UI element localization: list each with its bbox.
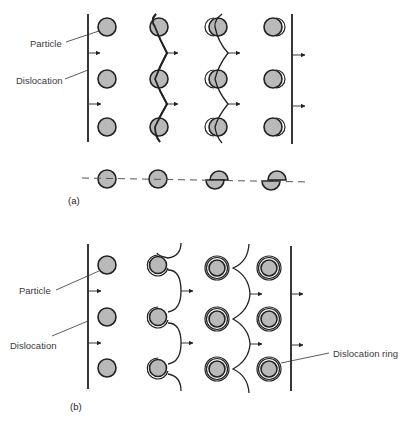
stage-a2 xyxy=(150,14,178,142)
particle xyxy=(98,18,116,36)
stage-b4 xyxy=(257,246,303,391)
ring-leader-line xyxy=(281,353,329,363)
stage-b3 xyxy=(205,244,262,393)
particle xyxy=(150,360,167,377)
particle xyxy=(209,311,225,327)
stage-b2 xyxy=(147,243,193,391)
dislocation-line xyxy=(168,374,181,391)
dislocation-line xyxy=(233,244,250,393)
sheared-particle-bottom xyxy=(262,181,280,190)
particle-label: Particle xyxy=(30,38,62,49)
particle xyxy=(261,311,277,327)
panel-b: Particle Dislocation Dislocation ring (b… xyxy=(10,243,398,412)
particle xyxy=(209,18,227,36)
particle xyxy=(150,257,167,274)
particle-leader-line xyxy=(56,271,99,290)
panel-a-label: (a) xyxy=(68,195,80,206)
particle xyxy=(150,309,167,326)
particle xyxy=(150,118,168,136)
particle xyxy=(209,260,225,276)
diagram-canvas: Particle Dislocation (a) xyxy=(0,0,409,425)
particle xyxy=(98,359,116,377)
stage-a4 xyxy=(264,14,305,144)
sheared-particle-bottom xyxy=(206,180,224,189)
particle xyxy=(209,70,227,88)
stage-a3 xyxy=(205,14,240,143)
particle xyxy=(98,308,116,326)
particle xyxy=(264,18,282,36)
particle-label: Particle xyxy=(19,285,51,296)
dislocation-label: Dislocation xyxy=(10,340,56,351)
particle xyxy=(98,170,116,188)
particle xyxy=(264,118,282,136)
dislocation-line xyxy=(157,243,181,258)
slip-plane-view xyxy=(82,170,310,190)
dislocation-leader-line xyxy=(65,70,88,79)
particle xyxy=(98,118,116,136)
stage-b1 xyxy=(88,244,116,389)
sheared-particle-top xyxy=(268,171,286,180)
dislocation-label: Dislocation xyxy=(16,75,62,86)
particle xyxy=(209,118,227,136)
panel-b-label: (b) xyxy=(70,401,82,412)
particle xyxy=(264,70,282,88)
dislocation-bow xyxy=(168,323,181,364)
particle xyxy=(150,70,168,88)
particle xyxy=(98,70,116,88)
sheared-particle-top xyxy=(210,171,228,180)
panel-a: Particle Dislocation (a) xyxy=(16,14,310,206)
particle xyxy=(209,361,225,377)
dislocation-ring-label: Dislocation ring xyxy=(333,348,398,359)
particle xyxy=(261,361,277,377)
dislocation-bow xyxy=(168,270,181,312)
dislocation-leader-line xyxy=(52,321,88,336)
particle xyxy=(98,256,116,274)
particle-leader-line xyxy=(66,31,99,42)
particle xyxy=(261,260,277,276)
